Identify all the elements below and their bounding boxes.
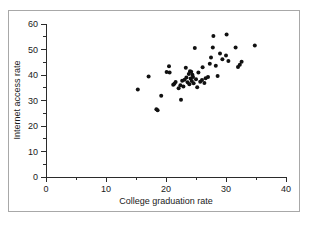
data-point bbox=[224, 54, 228, 58]
x-axis-ticks bbox=[46, 177, 286, 182]
data-point bbox=[179, 98, 183, 102]
data-point bbox=[159, 94, 163, 98]
y-tick-label: 30 bbox=[28, 96, 38, 106]
plot-svg: 0102030405060 010203040 College graduati… bbox=[0, 0, 309, 225]
y-tick-label: 0 bbox=[33, 172, 38, 182]
data-point bbox=[206, 75, 210, 79]
data-point bbox=[226, 59, 230, 63]
data-point bbox=[147, 75, 151, 79]
y-tick-label: 10 bbox=[28, 147, 38, 157]
y-tick-label: 40 bbox=[28, 70, 38, 80]
data-point bbox=[208, 62, 212, 66]
screenshot-root: 0102030405060 010203040 College graduati… bbox=[0, 0, 309, 225]
data-point bbox=[214, 64, 218, 68]
data-point bbox=[225, 32, 229, 36]
scatter-plot: 0102030405060 010203040 College graduati… bbox=[0, 0, 309, 225]
y-axis-tick-labels: 0102030405060 bbox=[28, 19, 38, 182]
x-axis-title: College graduation rate bbox=[119, 196, 213, 206]
y-tick-label: 20 bbox=[28, 121, 38, 131]
data-point bbox=[216, 74, 220, 78]
data-point bbox=[253, 43, 257, 47]
data-point bbox=[156, 108, 160, 112]
data-point bbox=[209, 55, 213, 59]
data-point bbox=[192, 81, 196, 85]
data-point bbox=[181, 84, 185, 88]
x-tick-label: 10 bbox=[101, 184, 111, 194]
data-point bbox=[193, 46, 197, 50]
data-point-group bbox=[136, 32, 257, 112]
data-point bbox=[211, 34, 215, 38]
data-point bbox=[211, 45, 215, 49]
x-tick-label: 30 bbox=[221, 184, 231, 194]
data-point bbox=[195, 85, 199, 89]
data-point bbox=[201, 65, 205, 69]
x-axis: 010203040 bbox=[43, 177, 291, 194]
data-point bbox=[184, 76, 188, 80]
data-point bbox=[202, 81, 206, 85]
y-axis: 0102030405060 bbox=[28, 19, 46, 182]
data-point bbox=[218, 52, 222, 56]
data-point bbox=[194, 77, 198, 81]
data-point bbox=[136, 88, 140, 92]
data-point bbox=[240, 60, 244, 64]
data-point bbox=[184, 66, 188, 70]
x-tick-label: 40 bbox=[281, 184, 291, 194]
data-point bbox=[168, 70, 172, 74]
y-tick-label: 50 bbox=[28, 45, 38, 55]
data-point bbox=[174, 80, 178, 84]
data-point bbox=[167, 64, 171, 68]
data-point bbox=[220, 57, 224, 61]
x-tick-label: 20 bbox=[161, 184, 171, 194]
y-axis-ticks bbox=[41, 24, 46, 177]
x-tick-label: 0 bbox=[43, 184, 48, 194]
data-point bbox=[196, 70, 200, 74]
x-axis-tick-labels: 010203040 bbox=[43, 184, 291, 194]
data-point bbox=[234, 45, 238, 49]
y-axis-title: Internet access rate bbox=[12, 60, 22, 139]
y-tick-label: 60 bbox=[28, 19, 38, 29]
